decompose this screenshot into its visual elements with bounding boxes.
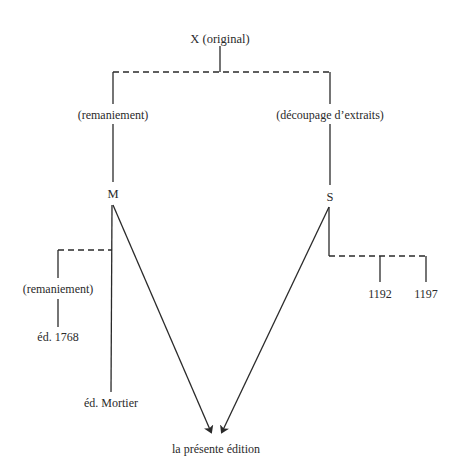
node-x-original: X (original)	[189, 32, 250, 46]
s-arrow	[222, 207, 329, 432]
label-remaniement-top: (remaniement)	[77, 108, 150, 122]
node-1197: 1197	[413, 287, 439, 301]
label-remaniement-sub: (remaniement)	[22, 282, 95, 296]
label-decoupage-extraits: (découpage d’extraits)	[275, 108, 385, 122]
node-ed-mortier: éd. Mortier	[83, 396, 139, 410]
node-s: S	[326, 190, 335, 204]
node-ed-1768: éd. 1768	[36, 330, 79, 344]
m-to-mortier	[111, 205, 112, 392]
node-m: M	[106, 187, 119, 201]
node-presente-edition: la présente édition	[171, 442, 261, 456]
node-1192: 1192	[367, 287, 393, 301]
stemma-lines	[0, 0, 461, 474]
